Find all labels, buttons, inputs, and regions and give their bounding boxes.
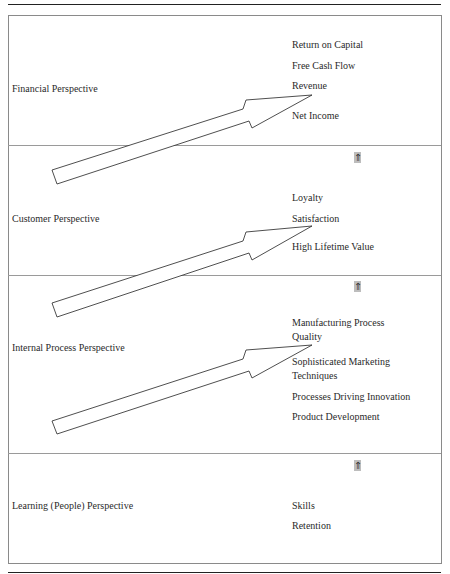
cause-effect-arrows — [0, 0, 450, 574]
block-arrow-icon — [52, 345, 312, 434]
bottom-rule — [8, 572, 441, 573]
block-arrow-icon — [52, 95, 312, 184]
block-arrow-icon — [52, 226, 312, 317]
